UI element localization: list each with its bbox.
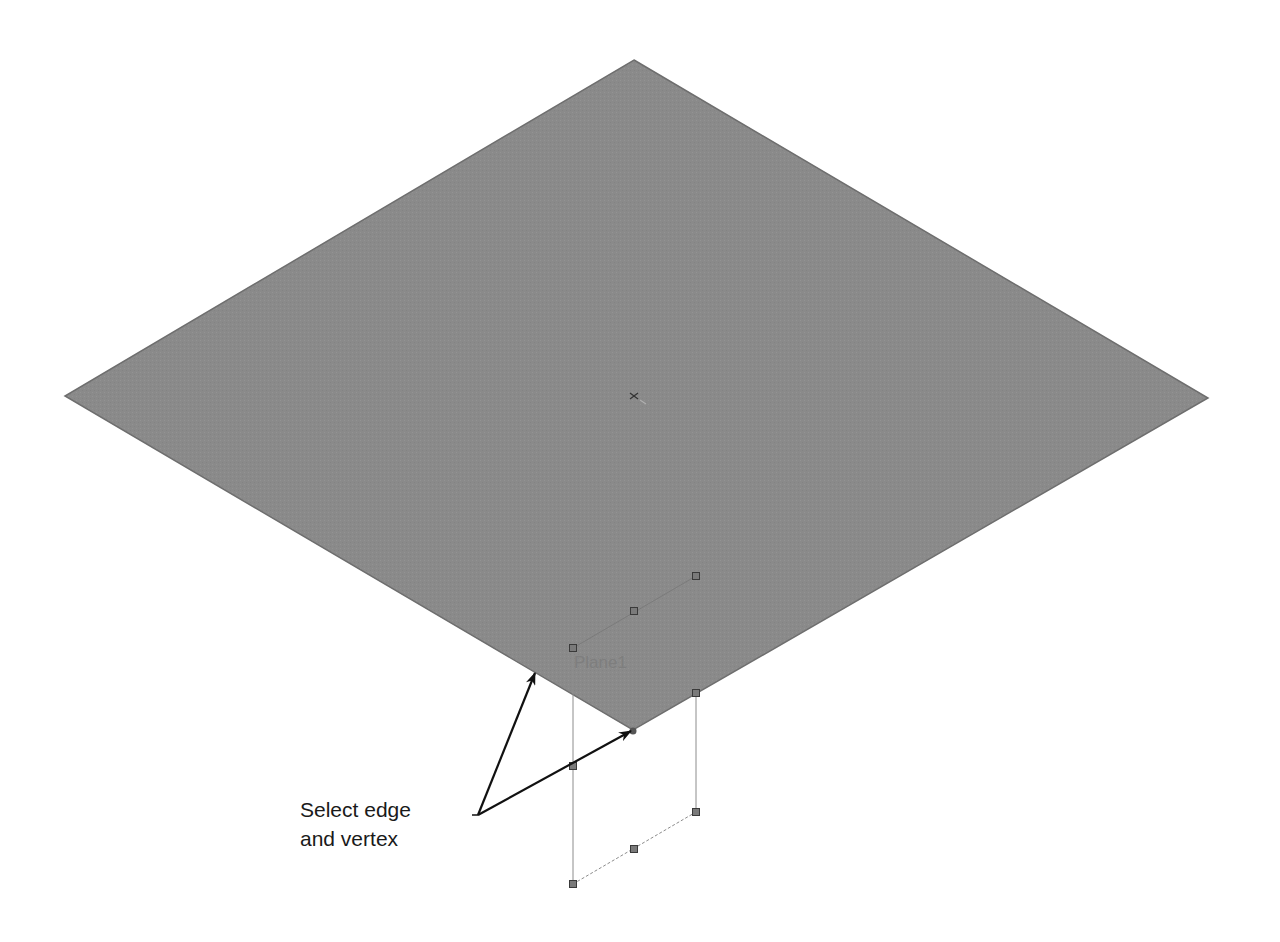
resize-handle[interactable] [693, 690, 700, 697]
resize-handle[interactable] [570, 645, 577, 652]
resize-handle[interactable] [631, 846, 638, 853]
resize-handle[interactable] [631, 608, 638, 615]
cad-viewport[interactable]: Plane1 [0, 0, 1280, 942]
callout-line-2: and vertex [300, 824, 411, 853]
callout-text: Select edge and vertex [300, 795, 411, 853]
resize-handle[interactable] [693, 809, 700, 816]
resize-handle[interactable] [570, 881, 577, 888]
new-plane-label: Plane1 [574, 653, 627, 672]
arrow-to-vertex [478, 731, 631, 815]
reference-plane-face[interactable] [65, 60, 1208, 730]
arrow-to-edge [478, 673, 535, 815]
resize-handle[interactable] [693, 573, 700, 580]
callout-line-1: Select edge [300, 795, 411, 824]
